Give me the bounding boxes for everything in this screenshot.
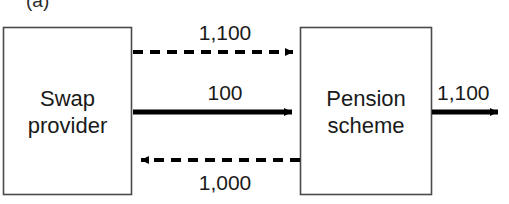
panel-label: (a) — [26, 0, 49, 10]
edge-label-pension-outflow: 1,100 — [437, 82, 507, 103]
diagram-canvas: (a) Swap provider Pension scheme 1,100 1… — [0, 0, 509, 204]
edge-label-swap-to-pension-middle: 100 — [171, 82, 279, 103]
node-label-swap-provider: Swap provider — [3, 85, 132, 139]
edge-label-pension-to-swap-bottom: 1,000 — [171, 172, 279, 193]
edge-label-swap-to-pension-top: 1,100 — [171, 22, 279, 43]
node-label-pension-scheme: Pension scheme — [300, 85, 432, 139]
